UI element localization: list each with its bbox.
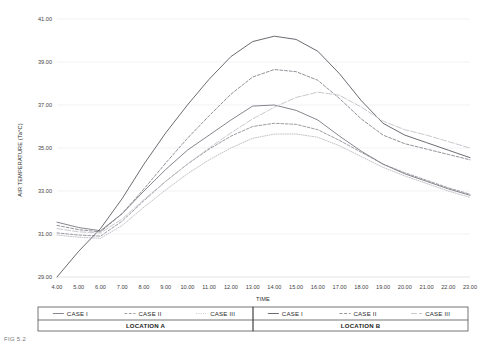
x-tick-label: 5.00	[73, 284, 84, 290]
x-tick-label: 22.00	[441, 284, 455, 290]
x-tick-label: 20.00	[398, 284, 412, 290]
x-axis-title: TIME	[256, 296, 270, 302]
x-tick-label: 23.00	[463, 284, 477, 290]
x-tick-label: 4.00	[52, 284, 63, 290]
figure-caption: FIG 5.2	[4, 336, 26, 342]
x-tick-label: 16.00	[311, 284, 325, 290]
y-tick-label: 31.00	[38, 231, 52, 237]
x-tick-label: 11.00	[202, 284, 216, 290]
x-tick-label: 14.00	[267, 284, 281, 290]
series-location-a-case-iii	[57, 134, 470, 238]
y-tick-label: 33.00	[38, 188, 52, 194]
series-location-a-case-i	[57, 105, 470, 231]
legend-entry-label: CASE II	[139, 310, 162, 317]
line-chart: 29.0031.0033.0035.0037.0039.0041.00 4.00…	[0, 0, 489, 342]
x-tick-label: 15.00	[289, 284, 303, 290]
figure-container: 29.0031.0033.0035.0037.0039.0041.00 4.00…	[0, 0, 489, 342]
x-tick-label: 6.00	[95, 284, 106, 290]
x-tick-label: 19.00	[376, 284, 390, 290]
x-axis-tick-labels: 4.005.006.007.008.009.0010.0011.0012.001…	[52, 284, 477, 290]
series-location-b-case-iii	[57, 92, 470, 233]
x-tick-label: 21.00	[420, 284, 434, 290]
y-tick-label: 37.00	[38, 102, 52, 108]
legend-entry-label: CASE III	[425, 310, 450, 317]
y-axis-tick-labels: 29.0031.0033.0035.0037.0039.0041.00	[38, 16, 52, 280]
x-tick-label: 10.00	[180, 284, 194, 290]
legend: LOCATION ACASE ICASE IICASE IIILOCATION …	[38, 307, 468, 331]
series-location-b-case-i	[57, 36, 470, 277]
y-tick-label: 39.00	[38, 59, 52, 65]
y-tick-label: 29.00	[38, 274, 52, 280]
gridlines	[57, 19, 470, 277]
legend-entry-label: CASE I	[67, 310, 88, 317]
plot-series	[57, 36, 470, 277]
y-axis-title: AIR TEMPERATURE (Ta°C)	[17, 123, 23, 196]
legend-entry-label: CASE III	[210, 310, 235, 317]
x-tick-label: 13.00	[246, 284, 260, 290]
series-location-b-case-ii	[57, 70, 470, 232]
x-tick-label: 17.00	[333, 284, 347, 290]
y-tick-label: 41.00	[38, 16, 52, 22]
legend-group-label: LOCATION A	[126, 322, 166, 329]
axis-titles: AIR TEMPERATURE (Ta°C) TIME	[17, 123, 270, 302]
legend-group-label: LOCATION B	[341, 322, 381, 329]
x-tick-label: 8.00	[139, 284, 150, 290]
x-tick-label: 18.00	[354, 284, 368, 290]
x-tick-label: 12.00	[224, 284, 238, 290]
y-tick-label: 35.00	[38, 145, 52, 151]
x-tick-label: 7.00	[117, 284, 128, 290]
legend-entry-label: CASE II	[354, 310, 377, 317]
x-tick-label: 9.00	[160, 284, 171, 290]
legend-entry-label: CASE I	[282, 310, 303, 317]
series-location-a-case-ii	[57, 123, 470, 236]
